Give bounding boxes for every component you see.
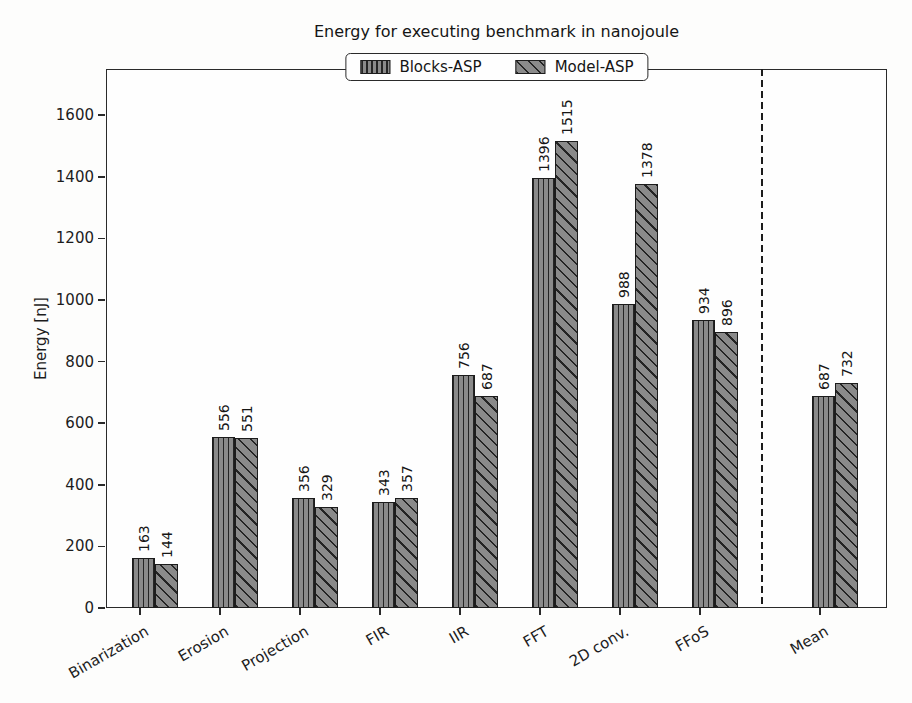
bar-value-label: 934 [696, 288, 712, 315]
bar-value-label: 1515 [559, 100, 575, 136]
bar-model-asp-2d-conv [635, 184, 658, 608]
y-tick-label: 0 [28, 599, 94, 617]
bar-value-label: 556 [216, 404, 232, 431]
y-tick-mark [98, 607, 105, 609]
bar-value-label: 756 [456, 342, 472, 369]
legend-item-blocks-asp: Blocks-ASP [360, 58, 481, 76]
x-tick-mark [819, 608, 821, 615]
mean-separator-line [761, 69, 763, 608]
bar-model-asp-erosion [235, 438, 258, 608]
x-tick-mark [379, 608, 381, 615]
legend-swatch-blocks-asp [360, 60, 390, 74]
x-tick-label-2d-conv: 2D conv. [566, 622, 632, 670]
x-tick-mark [619, 608, 621, 615]
bar-value-label: 551 [239, 406, 255, 433]
x-tick-mark [459, 608, 461, 615]
chart-figure: Energy for executing benchmark in nanojo… [0, 0, 912, 703]
x-tick-mark [539, 608, 541, 615]
bar-model-asp-ffos [715, 332, 738, 608]
bar-value-label: 343 [376, 470, 392, 497]
y-tick-mark [98, 361, 105, 363]
bar-blocks-asp-fir [372, 502, 395, 608]
bar-model-asp-iir [475, 396, 498, 608]
x-tick-mark [699, 608, 701, 615]
y-tick-mark [98, 114, 105, 116]
y-tick-label: 1400 [28, 168, 94, 186]
y-tick-label: 800 [28, 353, 94, 371]
x-tick-mark [219, 608, 221, 615]
bar-value-label: 732 [839, 350, 855, 377]
legend-label: Blocks-ASP [399, 58, 481, 76]
bar-blocks-asp-binarization [132, 558, 155, 608]
y-tick-mark [98, 238, 105, 240]
bar-value-label: 1396 [536, 136, 552, 172]
legend-label: Model-ASP [555, 58, 634, 76]
bar-value-label: 896 [719, 299, 735, 326]
legend-item-model-asp: Model-ASP [516, 58, 634, 76]
x-tick-label-binarization: Binarization [65, 622, 151, 682]
y-tick-label: 1600 [28, 106, 94, 124]
bar-value-label: 356 [296, 466, 312, 493]
x-tick-label-fft: FFT [520, 622, 552, 651]
chart-title: Energy for executing benchmark in nanojo… [106, 22, 887, 41]
x-tick-mark [139, 608, 141, 615]
y-tick-mark [98, 484, 105, 486]
bar-value-label: 163 [136, 525, 152, 552]
bar-model-asp-binarization [155, 564, 178, 608]
bar-model-asp-fir [395, 498, 418, 608]
bar-blocks-asp-iir [452, 375, 475, 608]
y-tick-mark [98, 422, 105, 424]
bar-value-label: 1378 [639, 142, 655, 178]
y-tick-mark [98, 176, 105, 178]
x-tick-label-projection: Projection [238, 622, 311, 675]
bar-blocks-asp-projection [292, 498, 315, 608]
bar-blocks-asp-ffos [692, 320, 715, 608]
bar-blocks-asp-2d-conv [612, 304, 635, 608]
y-tick-label: 1200 [28, 229, 94, 247]
bar-value-label: 329 [319, 474, 335, 501]
bar-model-asp-fft [555, 141, 578, 608]
bar-value-label: 988 [616, 271, 632, 298]
y-tick-mark [98, 299, 105, 301]
x-tick-label-mean: Mean [787, 622, 831, 658]
x-tick-label-fir: FIR [362, 622, 391, 649]
bar-model-asp-mean [835, 383, 858, 608]
bar-value-label: 687 [816, 364, 832, 391]
bar-value-label: 687 [479, 364, 495, 391]
bar-blocks-asp-mean [812, 396, 835, 608]
bar-value-label: 144 [159, 531, 175, 558]
legend: Blocks-ASPModel-ASP [345, 53, 648, 81]
y-tick-label: 1000 [28, 291, 94, 309]
y-tick-mark [98, 546, 105, 548]
bar-value-label: 357 [399, 465, 415, 492]
x-tick-label-iir: IIR [446, 622, 472, 647]
x-tick-mark [299, 608, 301, 615]
y-tick-label: 600 [28, 414, 94, 432]
bar-model-asp-projection [315, 507, 338, 608]
bar-blocks-asp-erosion [212, 437, 235, 608]
bar-blocks-asp-fft [532, 178, 555, 608]
y-tick-label: 400 [28, 476, 94, 494]
y-tick-label: 200 [28, 537, 94, 555]
legend-swatch-model-asp [516, 60, 546, 74]
x-tick-label-ffos: FFoS [672, 622, 712, 655]
x-tick-label-erosion: Erosion [175, 622, 232, 665]
